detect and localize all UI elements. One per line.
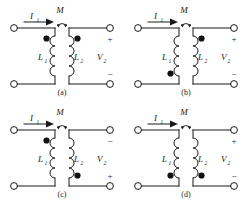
polarity-dot-l2-bottom [74, 172, 80, 178]
label-current: I [153, 11, 158, 21]
polarity-top: + [107, 34, 112, 44]
terminal-bottom-right [107, 183, 114, 190]
polarity-bottom: − [107, 69, 112, 79]
circuit-panel-d: I 1 M L 1 L 2 V 2 + − (d) [124, 102, 248, 204]
label-v2-sub: 2 [104, 58, 107, 64]
label-l2: L [73, 154, 79, 164]
label-v2-sub: 2 [104, 160, 107, 166]
terminal-top-right [107, 127, 114, 134]
label-mutual: M [55, 107, 64, 117]
label-l2: L [197, 52, 203, 62]
panel-b-svg: I 1 M L 1 L 2 V 2 + − [124, 0, 248, 102]
terminal-bottom-left [135, 81, 142, 88]
label-l1-sub: 1 [45, 58, 48, 64]
panel-caption-a: (a) [0, 88, 124, 97]
circuit-panel-c: I 1 M L 1 L 2 V 2 − + (c) [0, 102, 124, 204]
coil-l1 [174, 138, 179, 178]
terminal-bottom-left [11, 183, 18, 190]
label-l2: L [73, 52, 79, 62]
current-arrow-head [46, 18, 54, 25]
label-l1-sub: 1 [169, 160, 172, 166]
label-mutual: M [179, 5, 188, 15]
terminal-bottom-right [231, 81, 238, 88]
polarity-dot-l2-bottom [198, 172, 204, 178]
label-mutual: M [179, 107, 188, 117]
terminal-bottom-left [135, 183, 142, 190]
terminal-top-left [135, 127, 142, 134]
panel-c-svg: I 1 M L 1 L 2 V 2 − + [0, 102, 124, 204]
terminal-top-left [135, 25, 142, 32]
coil-l1 [50, 36, 55, 76]
label-l1-sub: 1 [45, 160, 48, 166]
terminal-top-left [11, 127, 18, 134]
terminal-top-right [231, 25, 238, 32]
current-arrow-head [46, 120, 54, 127]
label-v2-sub: 2 [228, 58, 231, 64]
label-current: I [153, 113, 158, 123]
label-l2-sub: 2 [81, 160, 84, 166]
circuit-panel-b: I 1 M L 1 L 2 V 2 + − (b) [124, 0, 248, 102]
polarity-dot-l1-top [43, 137, 49, 143]
panel-caption-d: (d) [124, 190, 248, 199]
polarity-dot-l1-top [43, 35, 49, 41]
label-v2-sub: 2 [228, 160, 231, 166]
polarity-dot-l2-top [74, 35, 80, 41]
polarity-bottom: + [107, 171, 112, 181]
panel-caption-c: (c) [0, 190, 124, 199]
label-l2-sub: 2 [81, 58, 84, 64]
polarity-bottom: − [231, 171, 236, 181]
coupled-inductor-figure: I 1 M L 1 L 2 V 2 + − (a) [0, 0, 248, 204]
label-current-sub: 1 [37, 17, 40, 23]
label-current: I [29, 11, 34, 21]
polarity-top: + [231, 136, 236, 146]
polarity-dot-l1-bottom [167, 70, 173, 76]
label-l2-sub: 2 [205, 160, 208, 166]
label-l1: L [161, 154, 167, 164]
terminal-bottom-right [231, 183, 238, 190]
polarity-bottom: − [231, 69, 236, 79]
terminal-top-right [231, 127, 238, 134]
label-l2: L [197, 154, 203, 164]
label-current-sub: 1 [161, 119, 164, 125]
terminal-bottom-right [107, 81, 114, 88]
terminal-bottom-left [11, 81, 18, 88]
label-l2-sub: 2 [205, 58, 208, 64]
terminal-top-right [107, 25, 114, 32]
label-l1: L [37, 154, 43, 164]
coil-l1 [50, 138, 55, 178]
circuit-panel-a: I 1 M L 1 L 2 V 2 + − (a) [0, 0, 124, 102]
current-arrow-head [170, 120, 178, 127]
label-current-sub: 1 [161, 17, 164, 23]
polarity-dot-l2-top [198, 35, 204, 41]
label-l1: L [161, 52, 167, 62]
label-mutual: M [55, 5, 64, 15]
label-current: I [29, 113, 34, 123]
panel-a-svg: I 1 M L 1 L 2 V 2 + − [0, 0, 124, 102]
label-l1: L [37, 52, 43, 62]
label-l1-sub: 1 [169, 58, 172, 64]
coil-l1 [174, 36, 179, 76]
polarity-dot-l1-bottom [167, 172, 173, 178]
polarity-top: + [231, 34, 236, 44]
panel-caption-b: (b) [124, 88, 248, 97]
polarity-top: − [107, 136, 112, 146]
terminal-top-left [11, 25, 18, 32]
label-current-sub: 1 [37, 119, 40, 125]
current-arrow-head [170, 18, 178, 25]
panel-d-svg: I 1 M L 1 L 2 V 2 + − [124, 102, 248, 204]
